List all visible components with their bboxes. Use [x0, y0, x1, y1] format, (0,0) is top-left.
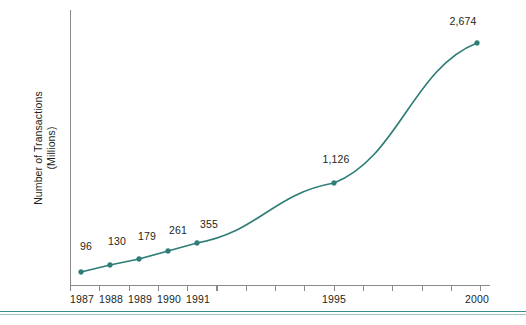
data-point-marker-1989 — [137, 257, 142, 262]
data-point-marker-2000 — [475, 41, 480, 46]
data-point-marker-1991 — [195, 241, 200, 246]
x-axis-label-1991: 1991 — [186, 293, 210, 305]
x-axis-label-1988: 1988 — [99, 293, 123, 305]
data-point-label-1991: 355 — [200, 218, 218, 230]
data-point-label-1990: 261 — [169, 224, 187, 236]
x-axis-label-1987: 1987 — [70, 293, 94, 305]
x-axis-label-1995: 1995 — [322, 293, 346, 305]
x-axis-label-1989: 1989 — [128, 293, 152, 305]
data-point-label-1987: 96 — [80, 240, 92, 252]
data-point-label-2000: 2,674 — [450, 15, 477, 27]
y-axis-title-line-2: (Millions) — [45, 127, 57, 170]
x-axis-label-2000: 2000 — [465, 293, 489, 305]
data-point-label-1989: 179 — [138, 230, 156, 242]
data-point-label-1988: 130 — [108, 235, 126, 247]
data-point-marker-1995 — [332, 181, 337, 186]
data-point-marker-1988 — [108, 263, 113, 268]
y-axis-title-line-1: Number of Transactions — [32, 91, 44, 205]
data-point-label-1995: 1,126 — [323, 153, 350, 165]
data-point-marker-1987 — [79, 270, 84, 275]
data-point-marker-1990 — [166, 249, 171, 254]
transactions-line-chart: 961301792613551,1262,674 198719881989199… — [0, 0, 526, 325]
chart-background — [0, 0, 526, 325]
chart-page: 961301792613551,1262,674 198719881989199… — [0, 0, 526, 325]
x-axis-label-1990: 1990 — [157, 293, 181, 305]
